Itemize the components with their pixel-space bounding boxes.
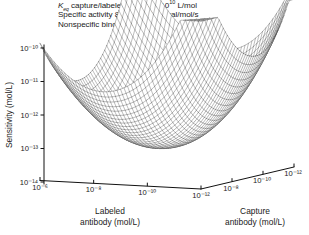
x-right-tick-label-2: 10⁻¹² [284,169,302,178]
x-left-axis-line [40,181,201,190]
x-right-tick-label-1: 10⁻¹⁰ [253,176,271,185]
y-axis-tick-label-1: 10⁻¹¹ [20,77,38,86]
y-axis-tick-label-2: 10⁻¹² [20,111,38,120]
figure-surface-plot: Keq capture/labeled antibody 1010 L/mol … [0,0,309,235]
x-right-tick-label-0: 10⁻⁸ [223,184,239,193]
x-left-axis-title-line2: antibody (mol/L) [80,217,140,227]
y-axis-title: Sensitivity (mol/L) [4,82,14,148]
y-axis-tick-label-3: 10⁻¹³ [20,144,38,153]
x-left-tick-label-0: 10⁻⁶ [32,183,48,192]
plot-canvas: 10⁻¹⁰10⁻¹¹10⁻¹²10⁻¹³10⁻¹⁴Sensitivity (mo… [0,0,309,235]
x-left-tick-label-2: 10⁻¹⁰ [138,188,156,197]
x-left-tick-label-3: 10⁻¹² [192,191,210,200]
x-right-axis-title-line1: Capture [240,206,270,216]
x-left-axis-title-line1: Labeled [95,206,125,216]
x-right-axis-line [201,167,294,189]
x-right-axis-title-line2: antibody (mol/L) [225,217,285,227]
y-axis-tick-label-0: 10⁻¹⁰ [20,44,38,53]
surface-mesh [40,0,294,149]
x-left-tick-label-1: 10⁻⁸ [86,185,102,194]
